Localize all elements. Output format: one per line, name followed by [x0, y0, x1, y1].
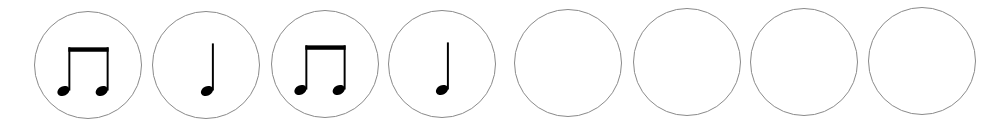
eighth-note-pair-icon: [272, 11, 378, 117]
beat-slot-8[interactable]: [868, 7, 976, 115]
beat-slot-5[interactable]: [514, 9, 622, 117]
beat-slot-2[interactable]: [152, 11, 260, 119]
quarter-note-icon: [153, 12, 259, 118]
beat-slot-7[interactable]: [750, 8, 858, 116]
quarter-note-icon: [389, 11, 495, 117]
eighth-note-pair-icon: [35, 12, 141, 118]
beat-slot-6[interactable]: [633, 8, 741, 116]
beat-slot-4[interactable]: [388, 10, 496, 118]
beat-slot-1[interactable]: [34, 11, 142, 119]
beat-slot-3[interactable]: [271, 10, 379, 118]
rhythm-slot-row: [0, 0, 1000, 130]
